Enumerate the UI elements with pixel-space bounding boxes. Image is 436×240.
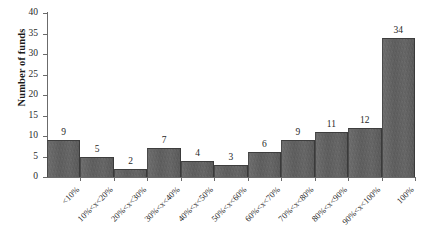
x-axis-tick [281,177,282,181]
bar-value-label: 34 [382,25,415,35]
bar-value-label: 12 [348,115,381,125]
x-axis-tick [80,177,81,181]
y-axis-tick-label: 5 [0,151,38,161]
x-axis-tick [315,177,316,181]
bar-value-label: 6 [248,139,281,149]
y-axis-tick-label: 30 [0,48,38,58]
bar [47,140,80,177]
bar [80,157,113,178]
bar [114,169,147,177]
x-axis-tick [147,177,148,181]
y-axis-tick-label: 35 [0,28,38,38]
bar [248,152,281,177]
x-axis-line [47,177,416,178]
bar-value-label: 2 [114,156,147,166]
x-axis-tick [181,177,182,181]
x-axis-tick [214,177,215,181]
bar-value-label: 5 [80,144,113,154]
x-axis-tick [114,177,115,181]
bar-value-label: 11 [315,119,348,129]
plot-area: 95274369111234 [47,13,415,177]
y-axis-tick [43,177,47,178]
bar-value-label: 3 [214,152,247,162]
y-axis-tick-label: 15 [0,110,38,120]
bar-value-label: 4 [181,148,214,158]
bar-value-label: 9 [281,127,314,137]
x-axis-tick [248,177,249,181]
x-axis-tick [415,177,416,181]
bar [147,148,180,177]
bar [214,165,247,177]
bar [382,38,415,177]
y-axis-tick-label: 0 [0,171,38,181]
y-axis-tick-label: 10 [0,130,38,140]
bar-value-label: 9 [47,127,80,137]
chart-figure: Number of funds 0510152025303540 9527436… [0,0,436,240]
bar [181,161,214,177]
y-axis-tick-label: 40 [0,7,38,17]
bar [348,128,381,177]
bar-value-label: 7 [147,135,180,145]
bar [315,132,348,177]
x-axis-tick [348,177,349,181]
bar [281,140,314,177]
x-axis-tick [382,177,383,181]
y-axis-tick-label: 20 [0,89,38,99]
y-axis-tick-label: 25 [0,69,38,79]
